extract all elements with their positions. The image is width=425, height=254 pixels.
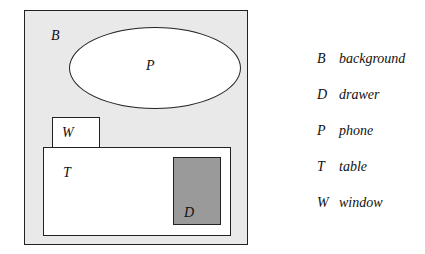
legend-word: background (339, 51, 405, 67)
legend-letter: D (317, 87, 337, 103)
table-region: T D (43, 147, 231, 236)
legend-word: drawer (339, 87, 379, 103)
window-region: W (52, 117, 100, 149)
drawer-label: D (184, 206, 194, 220)
background-region: B P W T D (24, 10, 248, 245)
legend-word: phone (339, 123, 373, 139)
phone-label: P (146, 59, 155, 73)
legend-letter: P (317, 123, 337, 139)
table-label: T (63, 166, 71, 180)
background-label: B (51, 29, 60, 43)
drawer-region: D (173, 157, 221, 225)
legend-word: window (339, 195, 383, 211)
phone-region: P (69, 27, 241, 109)
legend-word: table (339, 159, 367, 175)
legend-letter: W (317, 195, 337, 211)
window-label: W (62, 126, 74, 140)
legend-letter: B (317, 51, 337, 67)
legend-letter: T (317, 159, 337, 175)
